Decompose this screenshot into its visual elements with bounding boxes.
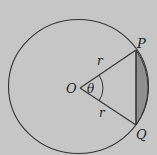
circle [9, 20, 149, 154]
label-r-upper: r [97, 54, 104, 68]
angle-arc [99, 75, 103, 101]
label-r-lower: r [99, 106, 106, 120]
label-p: P [136, 36, 146, 51]
circle-segment-diagram: O θ r r P Q [0, 0, 157, 155]
label-q: Q [136, 127, 147, 142]
label-o: O [66, 81, 77, 96]
shaded-segment [136, 50, 148, 125]
label-theta: θ [87, 82, 95, 96]
